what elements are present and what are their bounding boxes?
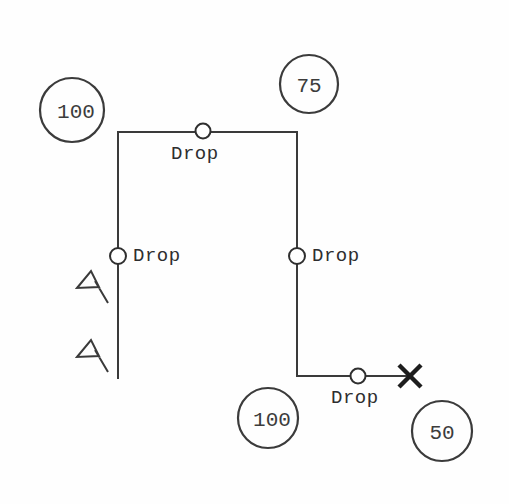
flag-lower-icon	[77, 340, 108, 372]
tag-balloons: 100 75 100 50	[40, 55, 472, 461]
drop-node-left-icon[interactable]	[110, 248, 126, 264]
tag-upper-left-value: 100	[57, 101, 95, 124]
drop-node-bottom-icon[interactable]	[351, 369, 366, 384]
tag-upper-right-value: 75	[296, 75, 321, 98]
drop-label-bottom: Drop	[331, 387, 379, 409]
drop-node-top-icon[interactable]	[196, 124, 211, 139]
pipe-network-svg: 100 75 100 50	[0, 0, 509, 504]
tag-lower-right-value: 50	[429, 422, 454, 445]
tag-lower-middle-value: 100	[253, 409, 291, 432]
diagram-canvas: 100 75 100 50 Drop Drop Drop Drop	[0, 0, 509, 504]
flag-upper-icon	[77, 271, 108, 303]
hanger-flags	[77, 271, 108, 372]
drop-label-left: Drop	[133, 245, 181, 267]
drop-label-right: Drop	[312, 245, 360, 267]
drop-node-right-icon[interactable]	[289, 248, 305, 264]
drop-label-top: Drop	[171, 143, 219, 165]
